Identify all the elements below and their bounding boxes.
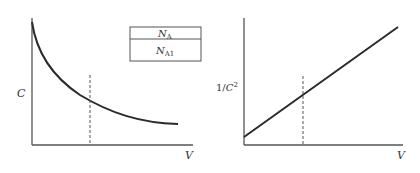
inverse-square-line — [244, 27, 398, 137]
right-plot: 1/C2 V — [216, 18, 406, 162]
left-ylabel: C — [17, 87, 26, 100]
right-ylabel: 1/C2 — [216, 81, 238, 93]
left-plot: C V NA NA1 — [17, 18, 201, 162]
left-xlabel: V — [185, 149, 194, 162]
right-xlabel: V — [397, 149, 406, 162]
doping-legend-box: NA NA1 — [130, 27, 201, 61]
diagram-canvas: C V NA NA1 1/C2 V — [0, 0, 420, 173]
